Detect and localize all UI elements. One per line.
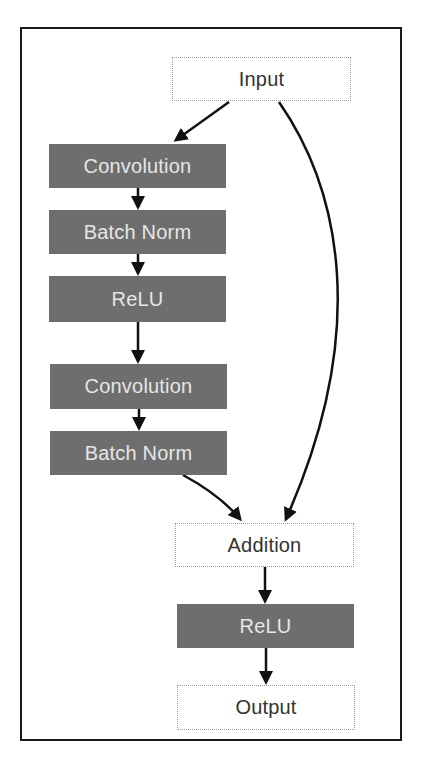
edge-input-conv1 xyxy=(176,102,229,140)
node-input: Input xyxy=(172,57,351,101)
node-convolution-2: Convolution xyxy=(50,364,227,409)
node-relu-2: ReLU xyxy=(177,604,354,648)
node-addition: Addition xyxy=(175,523,354,567)
edge-input-add-skip xyxy=(279,102,338,519)
node-batch-norm-1: Batch Norm xyxy=(49,210,226,254)
node-convolution-1: Convolution xyxy=(49,144,226,188)
node-output: Output xyxy=(177,685,355,730)
edge-bn2-add xyxy=(183,475,240,519)
node-relu-1: ReLU xyxy=(49,276,226,322)
node-batch-norm-2: Batch Norm xyxy=(50,431,227,475)
